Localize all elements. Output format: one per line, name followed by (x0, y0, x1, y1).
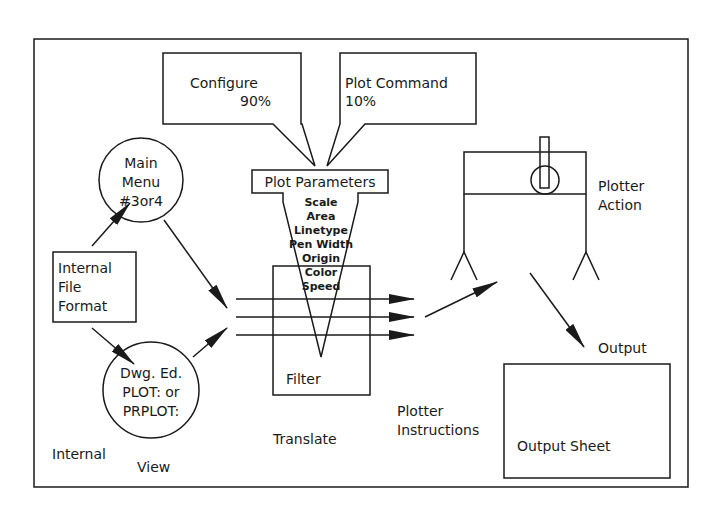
iff-line-2: File (58, 279, 81, 295)
internal-label: Internal (52, 446, 106, 462)
main-menu-line-2: Menu (122, 174, 160, 190)
plot-command-callout: Plot Command 10% (327, 53, 476, 166)
to-output-arrow (530, 273, 584, 347)
param-scale: Scale (304, 196, 337, 209)
output-sheet: Output Sheet (504, 364, 670, 478)
plotter-instructions-line-2: Instructions (397, 422, 479, 438)
output-sheet-label: Output Sheet (517, 438, 611, 454)
internal-file-format-node: Internal File Format (53, 252, 136, 322)
translate-label: Translate (272, 431, 337, 447)
data-stream-arrows (236, 299, 414, 335)
dwg-line-2: PLOT: or (122, 384, 180, 400)
configure-value: 90% (240, 93, 271, 109)
dwg-line-1: Dwg. Ed. (120, 365, 182, 381)
param-color: Color (305, 266, 338, 279)
plot-parameters-title: Plot Parameters (265, 174, 376, 190)
param-pen-width: Pen Width (289, 238, 353, 251)
plotter-action-line-2: Action (598, 197, 642, 213)
param-speed: Speed (302, 280, 341, 293)
filter-label: Filter (286, 371, 321, 387)
param-area: Area (307, 210, 336, 223)
param-linetype: Linetype (294, 224, 348, 237)
plotter-icon (451, 137, 599, 280)
iff-line-3: Format (58, 298, 108, 314)
configure-callout: Configure 90% (163, 53, 315, 166)
plot-command-value: 10% (345, 93, 376, 109)
drawing-editor-node: Dwg. Ed. PLOT: or PRPLOT: (103, 342, 199, 438)
plot-command-label: Plot Command (345, 75, 448, 91)
iff-line-1: Internal (58, 260, 112, 276)
plotter-action-line-1: Plotter (598, 178, 644, 194)
view-label: View (137, 459, 170, 475)
plotter-instructions-line-1: Plotter (397, 403, 443, 419)
to-plotter-arrow (425, 282, 497, 317)
param-origin: Origin (302, 252, 340, 265)
left-flow-arrows (92, 203, 227, 364)
output-label: Output (598, 340, 647, 356)
plot-flow-diagram: Configure 90% Plot Command 10% Filter Pl… (0, 0, 709, 512)
main-menu-node: Main Menu #3or4 (99, 138, 183, 222)
configure-label: Configure (190, 75, 258, 91)
main-menu-line-3: #3or4 (119, 193, 163, 209)
main-menu-line-1: Main (124, 155, 157, 171)
dwg-line-3: PRPLOT: (123, 403, 180, 419)
